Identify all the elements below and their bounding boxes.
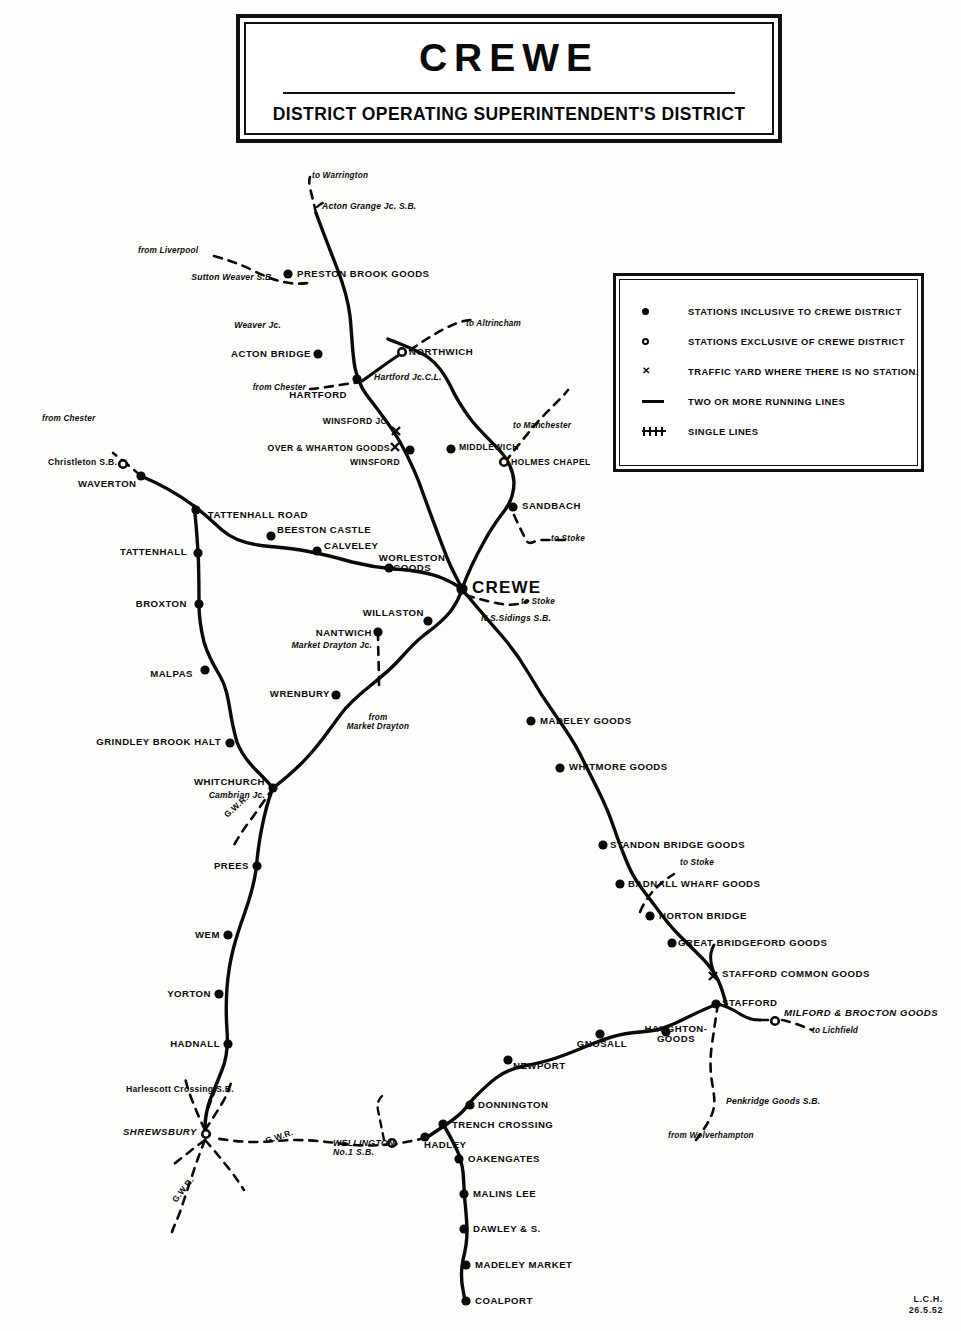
station-calveley: CALVELEY: [324, 540, 378, 551]
station-prees: PREES: [214, 860, 249, 871]
station-willaston: WILLASTON: [363, 607, 424, 618]
station-broxton: BROXTON: [136, 598, 187, 609]
station-winsford-jc: WINSFORD JC.: [323, 416, 390, 426]
legend-label: TRAFFIC YARD WHERE THERE IS NO STATION.: [688, 366, 919, 377]
junction-weaver-jc: Weaver Jc.: [234, 320, 281, 330]
junction-market-drayton-jc: Market Drayton Jc.: [292, 640, 373, 650]
destination-to-stoke-crewe: to Stoke: [521, 597, 555, 606]
legend-item-single-track: SINGLE LINES: [620, 416, 917, 446]
destination-to-altrincham: to Altrincham: [466, 319, 521, 328]
legend-item-traffic-yard: ✕ TRAFFIC YARD WHERE THERE IS NO STATION…: [620, 356, 917, 386]
station-wrenbury: WRENBURY: [270, 688, 330, 699]
station-madeley-market: MADELEY MARKET: [475, 1259, 572, 1270]
station-standon-bridge-goods: STANDON BRIDGE GOODS: [610, 839, 745, 850]
station-hadley: HADLEY: [424, 1139, 466, 1150]
station-winsford: WINSFORD: [350, 457, 400, 467]
station-haughton-goods-label: HAUGHTON-GOODS: [645, 1024, 708, 1044]
station-newport: NEWPORT: [513, 1060, 566, 1071]
signature-initials: L.C.H.: [909, 1294, 943, 1304]
station-milford-and-brocton-goods: MILFORD & BROCTON GOODS: [784, 1007, 938, 1018]
x-mark-icon: ✕: [642, 366, 688, 376]
station-oakengates: OAKENGATES: [468, 1153, 540, 1164]
station-shrewsbury: SHREWSBURY: [123, 1126, 197, 1137]
station-malins-lee: MALINS LEE: [473, 1188, 536, 1199]
station-worleston-goods: WORLESTONGOODS: [379, 553, 446, 573]
junction-hartford-jc-cl: Hartford Jc.C.L.: [374, 372, 442, 382]
station-over-and-wharton-goods: OVER & WHARTON GOODS: [268, 443, 390, 453]
station-yorton: YORTON: [167, 988, 211, 999]
destination-from-market-drayton: fromMarket Drayton: [347, 714, 409, 731]
hatched-line-icon: [642, 427, 688, 436]
junction-wellington-no1-sb: WELLINGTONNo.1 S.B.: [333, 1139, 395, 1157]
station-northwich: NORTHWICH: [409, 346, 473, 357]
station-madeley-goods: MADELEY GOODS: [540, 715, 632, 726]
station-whitmore-goods: WHITMORE GOODS: [569, 761, 668, 772]
legend-item-stations-inclusive: STATIONS INCLUSIVE TO CREWE DISTRICT: [620, 296, 917, 326]
destination-to-warrington: to Warrington: [312, 171, 368, 180]
station-whitchurch: WHITCHURCH: [194, 776, 265, 787]
station-crewe: CREWE: [472, 578, 541, 598]
junction-christleton-sb: Christleton S.B.: [48, 457, 117, 467]
station-malpas: MALPAS: [150, 668, 193, 679]
railway-map: CREWE DISTRICT OPERATING SUPERINTENDENT'…: [0, 0, 961, 1331]
destination-from-chester-waverton: from Chester: [42, 414, 95, 423]
legend-label: TWO OR MORE RUNNING LINES: [688, 396, 845, 407]
destination-to-stoke-standon: to Stoke: [680, 858, 714, 867]
signature-date: 26.5.52: [909, 1305, 943, 1315]
legend-item-double-track: TWO OR MORE RUNNING LINES: [620, 386, 917, 416]
junction-acton-grange-jc-sb: Acton Grange Jc. S.B.: [322, 201, 416, 211]
filled-circle-icon: [642, 308, 688, 315]
station-tattenhall-road: TATTENHALL ROAD: [208, 509, 308, 520]
station-holmes-chapel: HOLMES CHAPEL: [511, 457, 591, 467]
station-beeston-castle: BEESTON CASTLE: [277, 524, 371, 535]
station-norton-bridge: NORTON BRIDGE: [659, 910, 747, 921]
legend: STATIONS INCLUSIVE TO CREWE DISTRICT STA…: [613, 273, 924, 472]
destination-to-manchester: to Manchester: [513, 421, 571, 430]
station-dawley-and-s: DAWLEY & S.: [473, 1223, 541, 1234]
legend-label: STATIONS INCLUSIVE TO CREWE DISTRICT: [688, 306, 902, 317]
station-coalport: COALPORT: [475, 1295, 533, 1306]
station-gnosall: GNOSALL: [577, 1038, 627, 1049]
station-acton-bridge: ACTON BRIDGE: [231, 348, 311, 359]
junction-harlescott-crossing-sb: Harlescott Crossing S.B.: [126, 1084, 234, 1094]
destination-to-stoke-sandbach: to Stoke: [551, 534, 585, 543]
station-worleston-goods-label: WORLESTONGOODS: [379, 553, 446, 573]
legend-item-stations-exclusive: STATIONS EXCLUSIVE OF CREWE DISTRICT: [620, 326, 917, 356]
station-wem: WEM: [195, 929, 220, 940]
station-preston-brook-goods: PRESTON BROOK GOODS: [297, 268, 429, 279]
solid-line-icon: [642, 400, 688, 403]
station-middlewich: MIDDLEWICH: [459, 442, 519, 452]
station-sandbach: SANDBACH: [522, 500, 581, 511]
station-haughton-goods: HAUGHTON-GOODS: [645, 1024, 708, 1044]
destination-to-lichfield: to Lichfield: [812, 1026, 858, 1035]
station-grindley-brook-halt: GRINDLEY BROOK HALT: [96, 736, 221, 747]
junction-sutton-weaver-sb: Sutton Weaver S.B.: [191, 272, 274, 282]
station-donnington: DONNINGTON: [478, 1099, 548, 1110]
station-badnall-wharf-goods: BADNALL WHARF GOODS: [628, 878, 760, 889]
open-circle-icon: [642, 338, 688, 345]
station-trench-crossing: TRENCH CROSSING: [452, 1119, 553, 1130]
legend-label: SINGLE LINES: [688, 426, 759, 437]
draughtsman-signature: L.C.H. 26.5.52: [909, 1294, 943, 1315]
station-hartford: HARTFORD: [289, 389, 347, 400]
destination-from-wolverhampton: from Wolverhampton: [668, 1131, 754, 1140]
station-stafford-common-goods: STAFFORD COMMON GOODS: [722, 968, 870, 979]
station-tattenhall: TATTENHALL: [120, 546, 187, 557]
legend-label: STATIONS EXCLUSIVE OF CREWE DISTRICT: [688, 336, 905, 347]
station-stafford: STAFFORD: [722, 997, 778, 1008]
station-hadnall: HADNALL: [170, 1038, 220, 1049]
junction-penkridge-goods-sb: Penkridge Goods S.B.: [726, 1096, 820, 1106]
destination-from-liverpool: from Liverpool: [138, 246, 198, 255]
junction-ns-sidings-sb: N.S.Sidings S.B.: [481, 613, 551, 623]
station-great-bridgeford-goods: GREAT BRIDGEFORD GOODS: [678, 937, 827, 948]
station-waverton: WAVERTON: [78, 478, 137, 489]
station-nantwich: NANTWICH: [316, 627, 372, 638]
